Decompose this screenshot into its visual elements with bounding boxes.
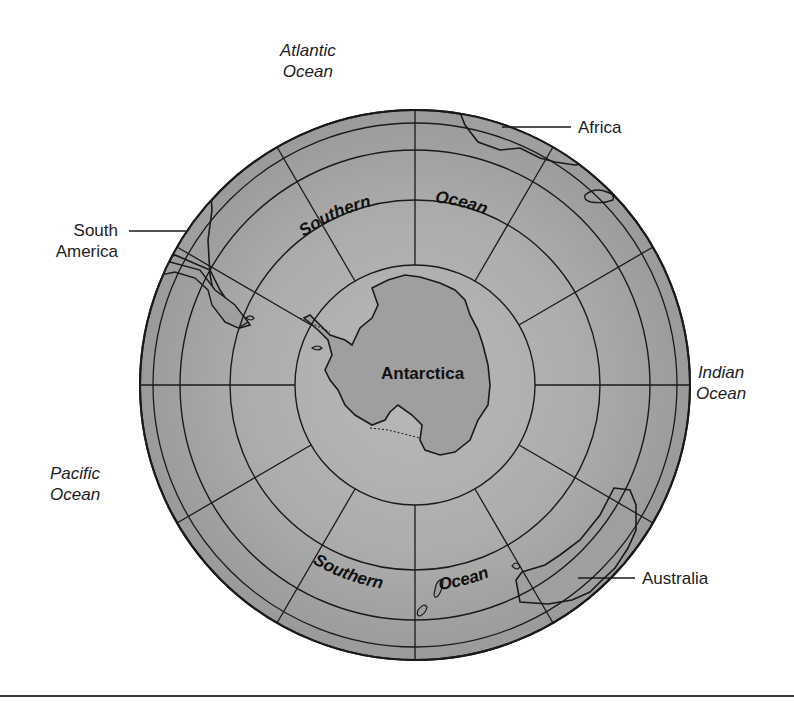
atlantic-ocean-label: Atlantic Ocean bbox=[280, 40, 336, 82]
polar-map: Southern Ocean Southern Ocean bbox=[0, 0, 794, 708]
indian-ocean-label: Indian Ocean bbox=[696, 362, 746, 404]
south-america-line2: America bbox=[42, 241, 118, 262]
pacific-line1: Pacific bbox=[50, 463, 100, 484]
australia-label: Australia bbox=[642, 568, 708, 589]
antarctica-label: Antarctica bbox=[381, 364, 464, 384]
south-america-label: South America bbox=[42, 220, 118, 262]
atlantic-line2: Ocean bbox=[280, 61, 336, 82]
antarctic-island bbox=[312, 346, 322, 350]
pacific-line2: Ocean bbox=[50, 484, 100, 505]
bottom-divider bbox=[0, 695, 794, 697]
pacific-ocean-label: Pacific Ocean bbox=[50, 463, 100, 505]
atlantic-line1: Atlantic bbox=[280, 40, 336, 61]
indian-line2: Ocean bbox=[696, 383, 746, 404]
south-america-line1: South bbox=[42, 220, 118, 241]
africa-label: Africa bbox=[578, 117, 621, 138]
indian-line1: Indian bbox=[696, 362, 746, 383]
madagascar bbox=[585, 190, 614, 203]
falkland-islands bbox=[246, 316, 254, 320]
